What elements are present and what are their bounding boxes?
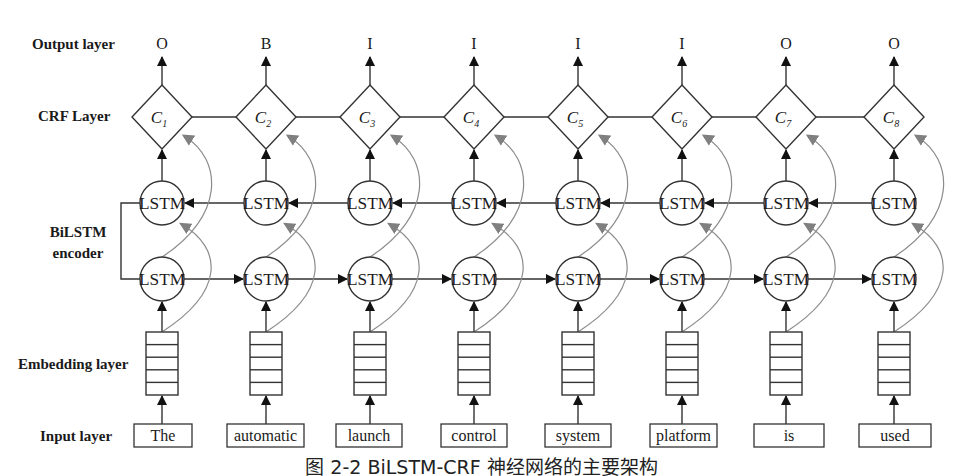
lstm-label: LSTM [347, 270, 393, 289]
lstm-label: LSTM [659, 194, 705, 213]
input-token-8: used [880, 427, 909, 444]
label-input-layer: Input layer [40, 429, 112, 444]
input-token-2: automatic [234, 427, 297, 444]
output-tag-7: O [780, 35, 792, 52]
output-tag-3: I [367, 35, 372, 52]
embedding-vector-6 [666, 332, 698, 395]
lstm-label: LSTM [347, 194, 393, 213]
input-token-7: is [784, 427, 795, 444]
nodes: OC1LSTMLSTMTheBC2LSTMLSTMautomaticIC3LST… [132, 35, 931, 447]
lstm-label: LSTM [243, 194, 289, 213]
input-token-4: control [451, 427, 497, 444]
lstm-label: LSTM [243, 270, 289, 289]
input-token-3: launch [348, 427, 391, 444]
embedding-vector-1 [146, 332, 178, 395]
output-tag-6: I [679, 35, 684, 52]
skip-connection-curves [162, 135, 944, 332]
label-crf-layer: CRF Layer [38, 109, 110, 124]
bilstm-crf-diagram-canvas: OC1LSTMLSTMTheBC2LSTMLSTMautomaticIC3LST… [0, 0, 963, 476]
lstm-label: LSTM [871, 194, 917, 213]
lstm-label: LSTM [139, 194, 185, 213]
embedding-vector-8 [878, 332, 910, 395]
lstm-label: LSTM [555, 270, 601, 289]
label-bilstm-encoder: BiLSTM encoder [38, 225, 118, 261]
lstm-label: LSTM [451, 270, 497, 289]
lstm-label: LSTM [451, 194, 497, 213]
output-tag-1: O [156, 35, 168, 52]
lstm-label: LSTM [555, 194, 601, 213]
output-tag-2: B [261, 35, 272, 52]
embedding-vector-5 [562, 332, 594, 395]
input-token-5: system [556, 427, 601, 445]
lstm-label: LSTM [763, 270, 809, 289]
output-tag-5: I [575, 35, 580, 52]
lstm-label: LSTM [763, 194, 809, 213]
lstm-label: LSTM [139, 270, 185, 289]
label-embedding-layer: Embedding layer [18, 357, 128, 372]
input-token-6: platform [656, 427, 712, 445]
output-tag-8: O [888, 35, 900, 52]
lstm-label: LSTM [659, 270, 705, 289]
label-output-layer: Output layer [32, 37, 115, 52]
lstm-label: LSTM [871, 270, 917, 289]
bilstm-bracket [121, 203, 140, 279]
embedding-vector-7 [770, 332, 802, 395]
figure-caption: 图 2-2 BiLSTM-CRF 神经网络的主要架构 [0, 458, 963, 476]
output-tag-4: I [471, 35, 476, 52]
label-bilstm-line2: encoder [38, 246, 118, 261]
embedding-vector-2 [250, 332, 282, 395]
input-token-1: The [151, 427, 176, 444]
label-bilstm-line1: BiLSTM [38, 225, 118, 240]
embedding-vector-3 [354, 332, 386, 395]
embedding-vector-4 [458, 332, 490, 395]
